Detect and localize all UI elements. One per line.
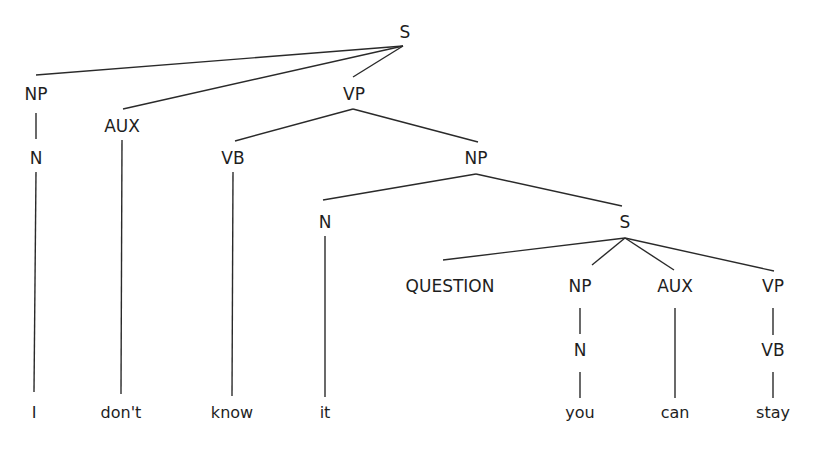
- tree-edges: [34, 46, 774, 398]
- tree-edge-s1-vp1: [353, 46, 403, 77]
- tree-node-label: N: [30, 148, 43, 168]
- tree-word: I: [32, 403, 37, 422]
- tree-word: can: [661, 403, 690, 422]
- tree-word: it: [320, 403, 331, 422]
- tree-node-label: VB: [761, 340, 784, 360]
- tree-edge-vb1-w3: [232, 172, 233, 396]
- tree-edge-s1-np1: [36, 46, 403, 75]
- tree-node-label: S: [620, 212, 631, 232]
- tree-edge-s2-q: [443, 238, 625, 260]
- syntax-tree-diagram: SNPNAUXVPVBNPNSQUESTIONNPNAUXVPVBIdon'tk…: [0, 0, 816, 449]
- tree-node-label: NP: [25, 84, 48, 104]
- tree-word: know: [211, 403, 253, 422]
- tree-node-label: N: [319, 212, 332, 232]
- tree-edge-n1-w1: [34, 172, 36, 392]
- tree-word: don't: [101, 403, 142, 422]
- tree-edge-np2-s2: [476, 174, 622, 206]
- tree-node-label: AUX: [657, 276, 693, 296]
- tree-node-label: VB: [221, 148, 244, 168]
- tree-node-label: VP: [343, 84, 365, 104]
- tree-node-label: QUESTION: [406, 276, 495, 296]
- tree-node-label: S: [400, 22, 411, 42]
- tree-edge-s2-vp2: [625, 238, 774, 271]
- tree-edge-aux1-w2: [121, 140, 122, 394]
- tree-edge-np2-n2: [323, 174, 476, 200]
- tree-node-label: NP: [569, 276, 592, 296]
- tree-edge-vp1-vb1: [235, 109, 353, 141]
- tree-edge-vp1-np2: [353, 109, 478, 142]
- tree-node-label: NP: [465, 148, 488, 168]
- tree-node-label: N: [574, 340, 587, 360]
- tree-word: you: [565, 403, 594, 422]
- tree-node-label: AUX: [104, 116, 140, 136]
- tree-node-label: VP: [762, 276, 784, 296]
- tree-word: stay: [756, 403, 790, 422]
